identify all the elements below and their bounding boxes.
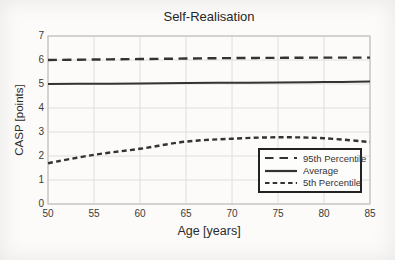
legend-item: Average — [265, 166, 355, 176]
y-tick-label: 2 — [20, 150, 44, 162]
x-tick-label: 60 — [126, 208, 154, 220]
legend-line-sample — [265, 168, 297, 174]
y-tick-label: 7 — [20, 30, 44, 42]
legend-item: 5th Percentile — [265, 178, 355, 188]
plot-area — [0, 0, 395, 260]
legend-item: 95th Percentile — [265, 154, 355, 164]
legend-line-sample — [265, 155, 297, 161]
y-tick-label: 6 — [20, 54, 44, 66]
y-tick-label: 3 — [20, 126, 44, 138]
x-tick-label: 55 — [80, 208, 108, 220]
y-axis-label: CASP [points] — [13, 79, 27, 161]
y-tick-label: 4 — [20, 102, 44, 114]
x-tick-label: 65 — [172, 208, 200, 220]
x-tick-label: 50 — [34, 208, 62, 220]
chart-screenshot: Self-Realisation CASP [points] Age [year… — [0, 0, 395, 260]
x-tick-label: 85 — [356, 208, 384, 220]
legend-label: 95th Percentile — [303, 154, 366, 164]
legend-line-sample — [265, 180, 297, 186]
legend-label: Average — [303, 166, 338, 176]
x-axis-label: Age [years] — [48, 224, 370, 238]
legend: 95th PercentileAverage5th Percentile — [258, 148, 362, 193]
x-tick-label: 70 — [218, 208, 246, 220]
x-tick-label: 75 — [264, 208, 292, 220]
y-tick-label: 5 — [20, 78, 44, 90]
x-tick-label: 80 — [310, 208, 338, 220]
chart-title: Self-Realisation — [48, 9, 370, 24]
legend-label: 5th Percentile — [303, 178, 361, 188]
y-tick-label: 1 — [20, 174, 44, 186]
